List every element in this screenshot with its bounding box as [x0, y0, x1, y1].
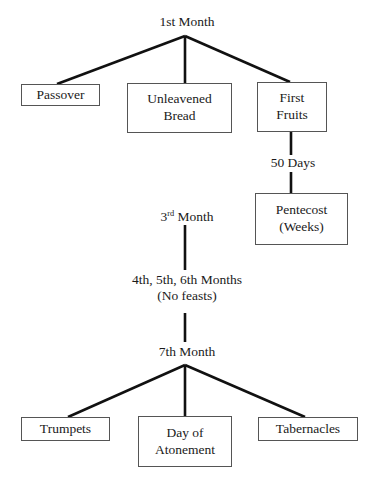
node-middle-months: 4th, 5th, 6th Months (No feasts) [100, 272, 274, 305]
edge-seventh-month-to-trumpets [68, 365, 185, 417]
node-third-month-word: Month [174, 209, 213, 224]
node-pentecost: Pentecost (Weeks) [255, 193, 348, 245]
node-first-fruits-label: First Fruits [272, 90, 312, 124]
node-third-month: 3rd Month [135, 209, 239, 225]
node-day-of-atonement-label: Day of Atonement [151, 425, 219, 459]
node-first-month: 1st Month [135, 14, 239, 30]
node-trumpets-label: Trumpets [36, 421, 95, 438]
node-trumpets: Trumpets [21, 417, 110, 441]
edge-seventh-month-to-tabernacles [185, 365, 305, 417]
edge-first-month-to-first-fruits [185, 36, 290, 82]
node-passover: Passover [21, 84, 100, 106]
node-seventh-month: 7th Month [135, 344, 239, 360]
node-unleavened-bread-label: Unleavened Bread [143, 91, 215, 125]
edge-first-month-to-passover [57, 36, 185, 84]
feast-calendar-diagram: 1st Month Passover Unleavened Bread Firs… [0, 0, 377, 486]
node-first-fruits: First Fruits [257, 82, 327, 132]
node-day-of-atonement: Day of Atonement [138, 416, 232, 467]
node-tabernacles-label: Tabernacles [272, 421, 344, 438]
node-passover-label: Passover [33, 87, 89, 104]
node-unleavened-bread: Unleavened Bread [127, 83, 232, 133]
node-pentecost-label: Pentecost (Weeks) [272, 202, 332, 236]
node-tabernacles: Tabernacles [258, 417, 358, 441]
edge-label-fifty-days: 50 Days [251, 155, 335, 171]
